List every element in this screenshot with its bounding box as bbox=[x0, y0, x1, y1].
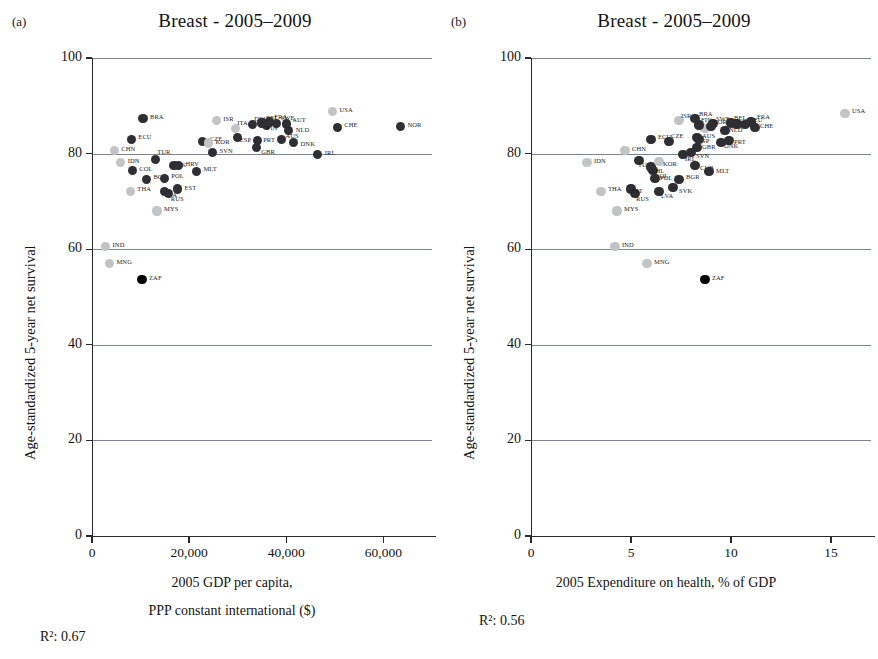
data-point-label-kor: KOR bbox=[216, 138, 230, 145]
data-point-bra bbox=[138, 114, 147, 123]
y-tick-label-80: 80 bbox=[477, 145, 521, 161]
x-tick-0 bbox=[91, 537, 92, 543]
y-tick-20 bbox=[525, 440, 531, 441]
x-tick-15 bbox=[830, 537, 831, 543]
data-point-label-idn: IDN bbox=[594, 157, 606, 164]
data-point-label-svk: SVK bbox=[679, 187, 692, 194]
y-axis-line bbox=[92, 58, 93, 538]
data-point-label-aut: AUT bbox=[292, 116, 306, 123]
data-point-label-irl: IRL bbox=[325, 149, 336, 156]
data-point-label-col: COL bbox=[139, 165, 152, 172]
data-point-est bbox=[173, 184, 182, 193]
data-point-label-mlt: MLT bbox=[203, 165, 216, 172]
x-tick-label-20000: 20,000 bbox=[149, 545, 229, 561]
data-point-prt bbox=[253, 136, 262, 145]
y-tick-label-20: 20 bbox=[38, 431, 82, 447]
data-point-label-che: CHE bbox=[344, 121, 357, 128]
y-tick-label-100: 100 bbox=[477, 49, 521, 65]
gridline-y-40 bbox=[92, 345, 432, 346]
x-tick-label-5: 5 bbox=[591, 545, 671, 561]
data-point-label-mys: MYS bbox=[164, 205, 178, 212]
data-point-usa bbox=[840, 109, 849, 118]
data-point-dnk bbox=[289, 138, 298, 147]
y-axis-line bbox=[531, 58, 532, 538]
data-point-cub bbox=[690, 161, 699, 170]
data-point-label-lva: LVA bbox=[661, 192, 673, 199]
panel-b: (b) Breast - 2005–2009 Age-standardized … bbox=[439, 0, 878, 659]
data-point-label-mng: MNG bbox=[116, 258, 131, 265]
data-point-ecu bbox=[646, 135, 655, 144]
data-point-label-ind: IND bbox=[113, 241, 125, 248]
gridline-y-60 bbox=[92, 249, 432, 250]
data-point-idn bbox=[582, 158, 591, 167]
data-point-label-est: EST bbox=[184, 184, 196, 191]
panel-b-x-axis-label-line1: 2005 Expenditure on health, % of GDP bbox=[461, 575, 871, 591]
gridline-y-40 bbox=[531, 345, 871, 346]
y-tick-label-20: 20 bbox=[477, 431, 521, 447]
data-point-label-pol: POL bbox=[171, 172, 184, 179]
y-tick-80 bbox=[86, 153, 92, 154]
data-point-irl bbox=[313, 150, 322, 159]
data-point-ind bbox=[610, 242, 619, 251]
y-tick-40 bbox=[525, 344, 531, 345]
data-point-mng bbox=[642, 259, 651, 268]
figure-scatter-pair: (a) Breast - 2005–2009 Age-standardized … bbox=[0, 0, 878, 659]
data-point-label-bra: BRA bbox=[150, 113, 164, 120]
data-point-label-tha: THA bbox=[137, 185, 151, 192]
data-point-label-nor: NOR bbox=[713, 118, 727, 125]
gridline-y-20 bbox=[531, 440, 871, 441]
y-tick-label-60: 60 bbox=[38, 240, 82, 256]
data-point-gbr bbox=[692, 143, 701, 152]
y-tick-100 bbox=[525, 57, 531, 58]
data-point-label-cze: CZE bbox=[671, 132, 684, 139]
y-tick-label-40: 40 bbox=[477, 336, 521, 352]
gridline-y-100 bbox=[92, 58, 432, 59]
data-point-mlt bbox=[192, 167, 201, 176]
x-tick-0 bbox=[530, 537, 531, 543]
data-point-label-ita: ITA bbox=[237, 119, 248, 126]
data-point-label-usa: USA bbox=[339, 106, 352, 113]
data-point-label-nor: NOR bbox=[407, 121, 421, 128]
x-axis-line bbox=[531, 536, 875, 537]
data-point-zaf bbox=[137, 275, 146, 284]
x-tick-60000 bbox=[383, 537, 384, 543]
gridline-y-100 bbox=[531, 58, 871, 59]
data-point-mys bbox=[612, 206, 621, 215]
data-point-label-pol: POL bbox=[660, 174, 673, 181]
gridline-y-60 bbox=[531, 249, 871, 250]
y-tick-20 bbox=[86, 440, 92, 441]
y-tick-label-0: 0 bbox=[477, 527, 521, 543]
data-point-label-tur: TUR bbox=[157, 148, 170, 155]
data-point-mys bbox=[152, 206, 161, 215]
data-point-zaf bbox=[700, 275, 709, 284]
panel-a-y-axis-label: Age-standardized 5-year net survival bbox=[22, 245, 39, 460]
data-point-label-bel: BEL bbox=[734, 114, 747, 121]
data-point-chn bbox=[620, 146, 629, 155]
panel-a-r2-annotation: R²: 0.67 bbox=[40, 629, 85, 645]
y-tick-label-100: 100 bbox=[38, 49, 82, 65]
data-point-tha bbox=[596, 187, 605, 196]
data-point-che bbox=[750, 123, 759, 132]
x-axis-line bbox=[92, 536, 436, 537]
data-point-label-aus: AUS bbox=[702, 132, 715, 139]
x-tick-5 bbox=[630, 537, 631, 543]
panel-b-title: Breast - 2005–2009 bbox=[499, 10, 849, 32]
panel-a-x-axis-label-line1: 2005 GDP per capita, bbox=[52, 575, 412, 591]
data-point-label-gbr: GBR bbox=[261, 148, 275, 155]
x-tick-20000 bbox=[188, 537, 189, 543]
data-point-ecu bbox=[127, 135, 136, 144]
data-point-label-dnk: DNK bbox=[724, 142, 738, 149]
data-point-label-mlt: MLT bbox=[716, 167, 729, 174]
y-tick-label-0: 0 bbox=[38, 527, 82, 543]
data-point-tha bbox=[126, 187, 135, 196]
panel-a-plot-area: 020406080100020,00040,00060,000BRAECUCHN… bbox=[92, 58, 432, 536]
data-point-label-zaf: ZAF bbox=[712, 274, 725, 281]
x-tick-label-0: 0 bbox=[52, 545, 132, 561]
data-point-che bbox=[333, 123, 342, 132]
y-tick-40 bbox=[86, 344, 92, 345]
x-tick-label-40000: 40,000 bbox=[246, 545, 326, 561]
panel-a: (a) Breast - 2005–2009 Age-standardized … bbox=[0, 0, 439, 659]
data-point-label-irl: IRL bbox=[685, 155, 696, 162]
data-point-label-mys: MYS bbox=[624, 205, 638, 212]
data-point-label-idn: IDN bbox=[128, 157, 140, 164]
